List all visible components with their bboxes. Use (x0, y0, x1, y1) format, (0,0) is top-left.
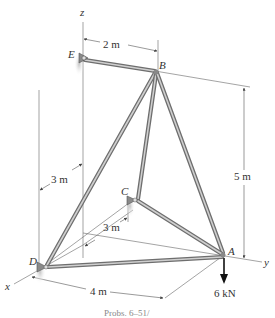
dimension-3m-center: 3 m (85, 218, 127, 246)
member-ca (138, 201, 222, 254)
dimension-4m: 4 m (32, 277, 163, 298)
member-bc (138, 74, 156, 199)
z-axis-label: z (79, 6, 85, 18)
load-6kn: 6 kN (214, 258, 236, 299)
dimension-3m-left: 3 m (40, 164, 82, 190)
down-arrow-icon (220, 274, 228, 284)
joint-label-d: D (28, 255, 37, 267)
member-da (48, 257, 222, 267)
y-axis-label: y (263, 256, 269, 268)
dimension-label-5m: 5 m (234, 170, 251, 182)
truss-members (47, 60, 223, 267)
figure-caption: Probs. 6–51/ (104, 308, 150, 318)
member-eb (85, 60, 155, 71)
joint-label-a: A (227, 245, 235, 257)
load-label: 6 kN (214, 287, 236, 299)
joint-b (154, 70, 159, 75)
dimension-label-2m: 2 m (103, 38, 120, 50)
z-axis: z (79, 6, 85, 258)
space-truss-diagram: z x y 2 m 5 m 3 m (0, 0, 275, 318)
joint-a (221, 253, 226, 258)
member-ba (157, 73, 223, 253)
dimension-label-4m: 4 m (90, 285, 107, 297)
joint-label-c: C (121, 185, 129, 197)
dimension-label-3m-center: 3 m (103, 221, 120, 233)
joint-label-b: B (159, 59, 166, 71)
dimension-label-3m-left: 3 m (51, 173, 68, 185)
x-axis-label: x (4, 280, 10, 292)
joint-label-e: E (67, 48, 75, 60)
dimension-5m: 5 m (234, 88, 251, 258)
